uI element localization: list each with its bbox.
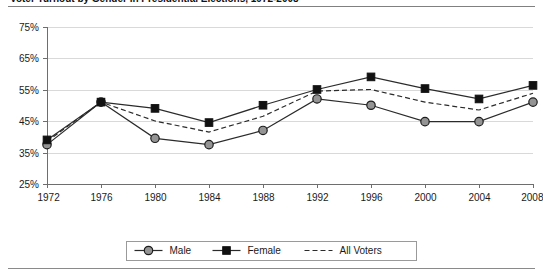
data-point-female bbox=[529, 82, 537, 90]
x-tick-label: 1992 bbox=[306, 192, 329, 203]
data-point-male bbox=[475, 117, 483, 125]
data-point-male bbox=[421, 117, 429, 125]
y-tick-labels-group: 25%35%45%55%65%75% bbox=[19, 22, 39, 190]
chart-legend: MaleFemaleAll Voters bbox=[127, 241, 417, 260]
x-tick-labels-group: 1972197619801984198819921996200020042008 bbox=[38, 192, 543, 203]
axis-lines-group bbox=[47, 27, 533, 185]
y-tick-label: 35% bbox=[19, 148, 39, 159]
y-tick-marks-group bbox=[43, 28, 47, 185]
series-line-female bbox=[47, 77, 533, 140]
data-point-male bbox=[313, 95, 321, 103]
y-tick-label: 75% bbox=[19, 22, 39, 33]
data-point-male bbox=[367, 101, 375, 109]
legend-label-male: Male bbox=[170, 245, 192, 256]
chart-figure: Voter Turnout by Gender in Presidential … bbox=[0, 0, 543, 276]
data-point-female bbox=[421, 85, 429, 93]
legend-label-all-voters: All Voters bbox=[340, 245, 382, 256]
x-tick-label: 2008 bbox=[521, 192, 543, 203]
data-point-female bbox=[97, 98, 105, 106]
y-tick-label: 45% bbox=[19, 116, 39, 127]
data-point-female bbox=[475, 95, 483, 103]
x-tick-label: 2004 bbox=[468, 192, 491, 203]
line-chart: 25%35%45%55%65%75% 197219761980198419881… bbox=[0, 0, 543, 276]
legend-marker-female bbox=[223, 247, 231, 255]
data-point-female bbox=[151, 105, 159, 113]
x-tick-label: 1972 bbox=[38, 192, 61, 203]
data-point-male bbox=[205, 140, 213, 148]
x-tick-label: 1984 bbox=[198, 192, 221, 203]
legend-label-female: Female bbox=[248, 245, 282, 256]
x-tick-label: 1976 bbox=[90, 192, 113, 203]
x-tick-label: 1988 bbox=[252, 192, 275, 203]
y-tick-label: 25% bbox=[19, 179, 39, 190]
data-point-female bbox=[205, 119, 213, 127]
gridlines-group bbox=[47, 28, 533, 185]
data-point-male bbox=[151, 134, 159, 142]
data-point-male bbox=[259, 126, 267, 134]
data-point-male bbox=[529, 98, 537, 106]
data-point-female bbox=[313, 86, 321, 94]
y-tick-label: 65% bbox=[19, 53, 39, 64]
x-tick-label: 2000 bbox=[414, 192, 437, 203]
series-lines-group bbox=[47, 77, 533, 145]
data-point-female bbox=[43, 136, 51, 144]
legend-marker-male bbox=[144, 246, 152, 254]
data-point-female bbox=[259, 101, 267, 109]
series-markers-group bbox=[43, 73, 537, 149]
y-tick-label: 55% bbox=[19, 85, 39, 96]
data-point-female bbox=[367, 73, 375, 81]
x-tick-label: 1996 bbox=[360, 192, 383, 203]
x-tick-label: 1980 bbox=[144, 192, 167, 203]
bottom-divider-rule bbox=[8, 268, 535, 269]
